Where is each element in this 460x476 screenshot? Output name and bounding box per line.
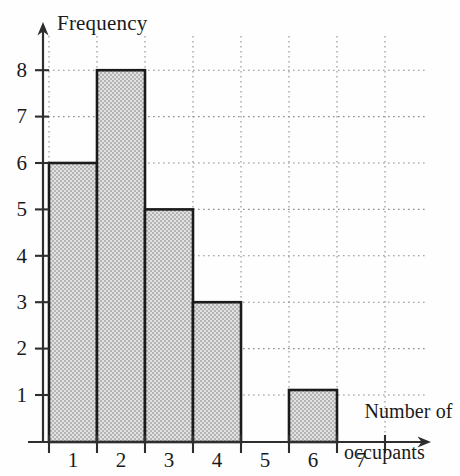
bar-4 <box>193 302 241 442</box>
y-axis-title: Frequency <box>57 13 147 34</box>
y-tick-label-1: 1 <box>5 383 27 408</box>
x-tick-label-2: 2 <box>108 448 134 473</box>
bar-1 <box>49 163 97 442</box>
y-axis <box>37 22 48 442</box>
bar-2 <box>97 70 145 442</box>
x-tick-label-1: 1 <box>60 448 86 473</box>
y-tick-label-8: 8 <box>5 58 27 83</box>
x-tick-label-4: 4 <box>204 448 230 473</box>
y-tick-label-3: 3 <box>5 290 27 315</box>
x-tick-label-6: 6 <box>300 448 326 473</box>
x-axis-title-line1: Number of <box>364 400 452 422</box>
y-tick-label-6: 6 <box>5 151 27 176</box>
x-tick-label-3: 3 <box>156 448 182 473</box>
bar-3 <box>145 209 193 442</box>
y-tick-label-2: 2 <box>5 336 27 361</box>
y-tick-label-4: 4 <box>5 244 27 269</box>
x-tick-label-7: 7 <box>348 448 374 473</box>
y-tick-label-7: 7 <box>5 104 27 129</box>
x-tick-label-5: 5 <box>252 448 278 473</box>
bar-6 <box>289 390 337 442</box>
histogram-chart: Frequency Number of occupants 8 7 6 5 4 … <box>0 0 460 476</box>
y-tick-label-5: 5 <box>5 197 27 222</box>
